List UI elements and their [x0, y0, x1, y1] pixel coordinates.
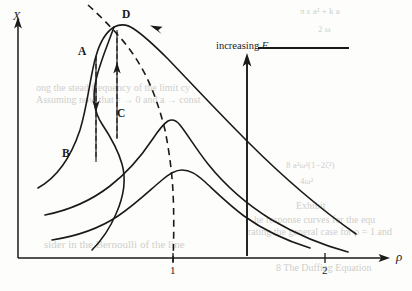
response-curve-plot: [0, 0, 412, 291]
response-curve-large-f-fold-branch: [92, 27, 124, 250]
increasing-f-text: increasing: [216, 40, 262, 51]
axis-group: [14, 17, 390, 263]
figure-root: π ε a² + k a2 ωong the stead frequency o…: [0, 0, 412, 291]
x-axis-label: ρ: [396, 250, 402, 263]
point-label-b: B: [62, 148, 70, 160]
x-tick-label-2: 2: [322, 265, 328, 276]
increasing-f-label: increasing F: [216, 41, 268, 52]
point-label-c: C: [117, 108, 125, 120]
response-curve-small-f: [52, 170, 310, 248]
point-label-a: A: [78, 46, 86, 58]
curve-direction-arrowhead: [150, 26, 163, 34]
y-axis-label: X: [13, 10, 20, 22]
jump-arrow-c-to-d: [113, 30, 120, 140]
response-curve-medium-f: [45, 120, 348, 252]
x-tick-label-1: 1: [170, 265, 176, 276]
point-label-d: D: [122, 9, 130, 21]
increasing-f-symbol: F: [262, 40, 268, 51]
